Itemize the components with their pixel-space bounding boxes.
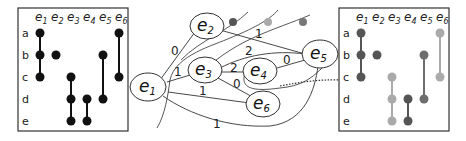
line-graph: 0 1 1 1 1 2 2 0 0 e1 e2 xyxy=(130,10,375,131)
node-e5: e5 xyxy=(302,40,338,68)
node-e1: e1 xyxy=(130,73,166,101)
edge-e1-e5 xyxy=(163,66,318,126)
weight-e3-e6: 0 xyxy=(233,77,241,91)
weight-e4-e5: 0 xyxy=(283,53,291,67)
left-matrix: e1 e2 e3 e4 e5 e6 a b c d e xyxy=(18,8,128,131)
partition-curves xyxy=(157,10,322,128)
hypergraph-figure: e1 e2 e3 e4 e5 e6 a b c d e xyxy=(0,0,466,141)
edge-e4-e5 xyxy=(277,60,305,68)
right-row-b: b xyxy=(343,49,350,62)
right-row-e: e xyxy=(343,115,350,128)
right-row-d: d xyxy=(343,93,350,106)
node-e3: e3 xyxy=(188,57,222,83)
left-matrix-frame xyxy=(18,8,128,131)
weight-e1-e6: 1 xyxy=(199,84,207,98)
weight-e1-e3: 1 xyxy=(174,65,182,79)
weight-e1-e5: 1 xyxy=(213,117,221,131)
node-e6: e6 xyxy=(246,91,280,117)
right-row-c: c xyxy=(343,71,349,84)
cluster-dot-dark xyxy=(229,18,237,26)
cluster-color-dots xyxy=(229,18,307,26)
left-row-d: d xyxy=(22,93,29,106)
node-e4: e4 xyxy=(243,58,277,84)
weight-e3-e4: 2 xyxy=(230,61,238,75)
edge-e1-e6 xyxy=(168,92,257,104)
right-matrix: e1 e2 e3 e4 e5 e6 a b c d e xyxy=(339,8,449,131)
right-row-a: a xyxy=(343,27,350,40)
left-row-b: b xyxy=(22,49,29,62)
cluster-dot-light xyxy=(264,18,272,26)
left-row-a: a xyxy=(22,27,29,40)
cluster-dot-mid xyxy=(299,18,307,26)
right-matrix-frame xyxy=(339,8,449,131)
left-row-c: c xyxy=(22,71,28,84)
weight-e3-e5: 2 xyxy=(245,44,253,58)
weight-e1-e2: 0 xyxy=(171,44,179,58)
node-e2: e2 xyxy=(190,13,224,39)
weight-e2-e5: 1 xyxy=(255,27,263,41)
left-row-e: e xyxy=(22,115,29,128)
